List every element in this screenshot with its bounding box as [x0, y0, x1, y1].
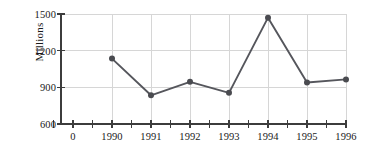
gridlines — [61, 14, 346, 124]
data-point-1996 — [343, 76, 349, 82]
tick-marks — [54, 14, 347, 128]
y-tick-label-900: 900 — [14, 82, 56, 93]
data-point-1992 — [187, 79, 193, 85]
data-point-1990 — [109, 56, 115, 62]
axis-lines — [61, 13, 346, 124]
data-point-1995 — [304, 79, 310, 85]
line-chart: Millions 60090012001500 0199019911992199… — [0, 0, 375, 154]
x-tick-label-1992: 1992 — [179, 131, 200, 142]
data-point-1993 — [226, 90, 232, 96]
y-tick-label-600: 600 — [14, 119, 56, 130]
y-tick-label-1200: 1200 — [14, 45, 56, 56]
x-tick-label-1991: 1991 — [140, 131, 161, 142]
x-tick-label-1994: 1994 — [257, 131, 278, 142]
x-tick-label-0: 0 — [70, 131, 75, 142]
x-tick-label-1995: 1995 — [296, 131, 317, 142]
y-tick-label-1500: 1500 — [14, 9, 56, 20]
x-tick-label-1996: 1996 — [335, 131, 356, 142]
data-point-1991 — [148, 92, 154, 98]
x-tick-label-1993: 1993 — [218, 131, 239, 142]
data-point-1994 — [265, 15, 271, 21]
x-tick-label-1990: 1990 — [101, 131, 122, 142]
